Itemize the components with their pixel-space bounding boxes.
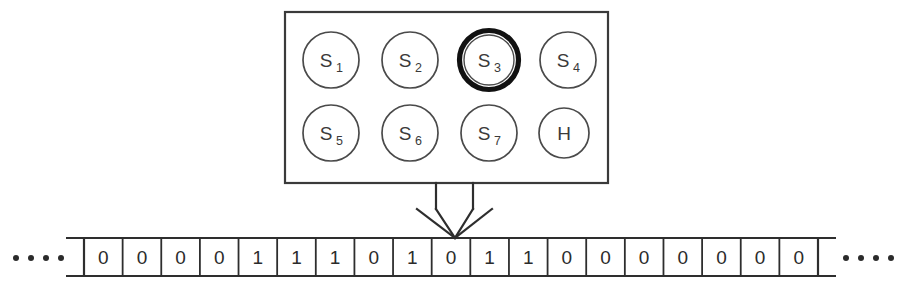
tape-cell[interactable]: 0 bbox=[793, 247, 804, 268]
tape-cell[interactable]: 0 bbox=[600, 247, 611, 268]
tape-cell[interactable]: 1 bbox=[253, 247, 264, 268]
state-circle-s3-active[interactable]: S 3 bbox=[460, 31, 519, 90]
tape-cell[interactable]: 0 bbox=[562, 247, 573, 268]
ellipsis-dot bbox=[873, 255, 879, 261]
read-write-head-arrow bbox=[417, 183, 492, 238]
diagram-svg: S 1 S 2 S 3 S 4 S 5 S 6 bbox=[0, 0, 910, 290]
tape-cell[interactable]: 0 bbox=[678, 247, 689, 268]
state-sub-s2: 2 bbox=[415, 61, 422, 75]
state-sub-s6: 6 bbox=[415, 134, 422, 148]
state-label-s7: S bbox=[478, 123, 491, 144]
tape-left-ellipsis bbox=[13, 255, 64, 261]
tape-cell[interactable]: 0 bbox=[175, 247, 186, 268]
state-sub-s1: 1 bbox=[336, 61, 343, 75]
ellipsis-dot bbox=[43, 255, 49, 261]
state-circle-s7[interactable]: S 7 bbox=[461, 105, 517, 161]
tape-cell[interactable]: 0 bbox=[755, 247, 766, 268]
state-circle-s1[interactable]: S 1 bbox=[303, 32, 359, 88]
tape-right-ellipsis bbox=[843, 255, 894, 261]
diagram-canvas: S 1 S 2 S 3 S 4 S 5 S 6 bbox=[0, 0, 910, 290]
tape-cell[interactable]: 0 bbox=[716, 247, 727, 268]
tape-cell[interactable]: 0 bbox=[639, 247, 650, 268]
ellipsis-dot bbox=[843, 255, 849, 261]
state-circle-h[interactable]: H bbox=[539, 108, 589, 158]
state-label-s2: S bbox=[399, 50, 412, 71]
ellipsis-dot bbox=[28, 255, 34, 261]
tape-cell[interactable]: 0 bbox=[446, 247, 457, 268]
state-circle-s5[interactable]: S 5 bbox=[303, 105, 359, 161]
tape-cell[interactable]: 0 bbox=[368, 247, 379, 268]
tape-cell[interactable]: 0 bbox=[137, 247, 148, 268]
tape-cell[interactable]: 1 bbox=[523, 247, 534, 268]
state-sub-s4: 4 bbox=[573, 61, 580, 75]
state-sub-s3: 3 bbox=[494, 61, 501, 75]
tape-cell[interactable]: 1 bbox=[407, 247, 418, 268]
tape-cell[interactable]: 0 bbox=[214, 247, 225, 268]
state-label-s3: S bbox=[478, 50, 491, 71]
state-label-s6: S bbox=[399, 123, 412, 144]
state-circle-s6[interactable]: S 6 bbox=[382, 105, 438, 161]
state-circle-s2[interactable]: S 2 bbox=[382, 32, 438, 88]
state-sub-s7: 7 bbox=[494, 134, 501, 148]
binary-tape: 0000111010110000000 bbox=[66, 238, 836, 276]
tape-cell[interactable]: 1 bbox=[291, 247, 302, 268]
ellipsis-dot bbox=[58, 255, 64, 261]
tape-cell[interactable]: 1 bbox=[484, 247, 495, 268]
ellipsis-dot bbox=[858, 255, 864, 261]
ellipsis-dot bbox=[13, 255, 19, 261]
state-label-s5: S bbox=[320, 123, 333, 144]
state-circle-s4[interactable]: S 4 bbox=[540, 32, 596, 88]
ellipsis-dot bbox=[888, 255, 894, 261]
state-label-s1: S bbox=[320, 50, 333, 71]
state-label-h: H bbox=[557, 123, 571, 144]
tape-cell[interactable]: 0 bbox=[98, 247, 109, 268]
state-sub-s5: 5 bbox=[336, 134, 343, 148]
tape-cell[interactable]: 1 bbox=[330, 247, 341, 268]
state-label-s4: S bbox=[557, 50, 570, 71]
